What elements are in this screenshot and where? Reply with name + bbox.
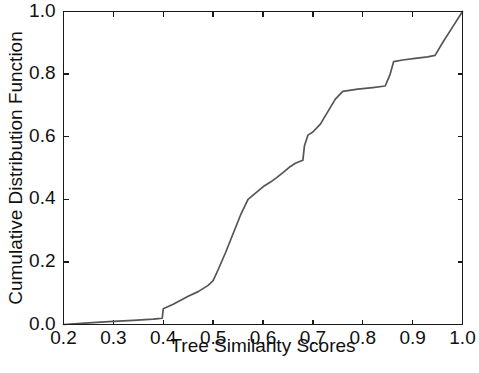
x-tick-label: 0.9 (399, 327, 425, 348)
y-tick-label: 0.4 (29, 187, 56, 208)
y-tick-label: 0.8 (29, 62, 55, 83)
cdf-line-chart: 0.20.30.40.50.60.70.80.91.0 0.00.20.40.6… (0, 0, 479, 373)
x-tick-label: 1.0 (449, 327, 475, 348)
chart-figure: 0.20.30.40.50.60.70.80.91.0 0.00.20.40.6… (0, 0, 479, 373)
y-tick-label: 0.0 (29, 313, 55, 334)
y-axis-title: Cumulative Distribution Function (5, 31, 26, 305)
y-tick-label: 0.6 (29, 125, 55, 146)
x-axis-title: Tree Similarity Scores (170, 335, 355, 356)
y-tick-label: 1.0 (29, 0, 55, 21)
y-tick-label: 0.2 (29, 250, 55, 271)
x-tick-label: 0.3 (100, 327, 126, 348)
figure-background (0, 0, 479, 373)
